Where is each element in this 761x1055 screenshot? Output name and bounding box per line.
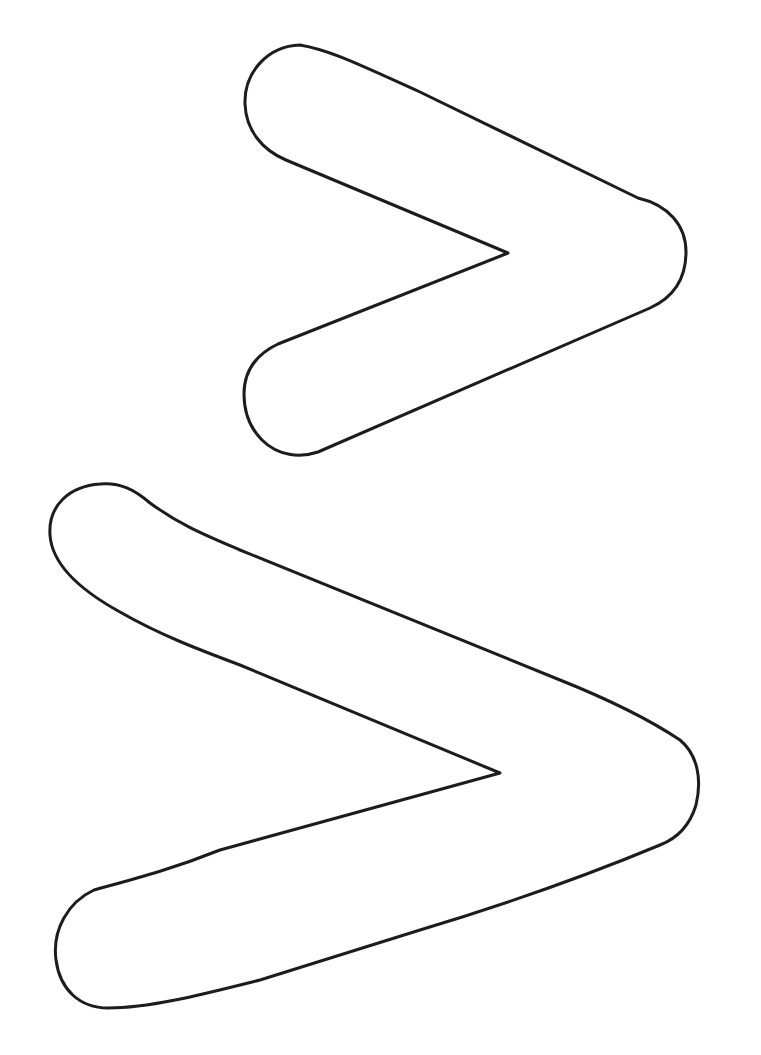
large-chevron-outline-icon [50, 484, 699, 1008]
chevrons-artwork [0, 0, 761, 1055]
small-chevron-outline-icon [244, 45, 686, 455]
coloring-page-canvas [0, 0, 761, 1055]
